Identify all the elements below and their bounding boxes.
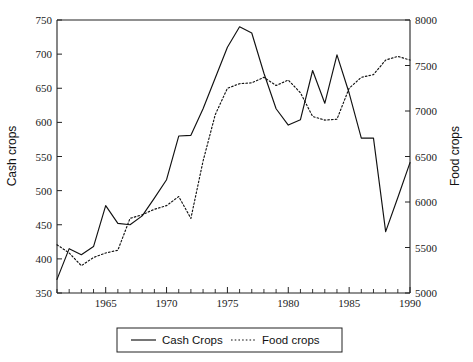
x-axis-tick-label: 1980	[277, 297, 300, 309]
y-axis-right-tick-label: 7000	[415, 105, 438, 117]
y-axis-right-tick-label: 8000	[415, 14, 438, 26]
y-axis-left-tick-label: 600	[36, 116, 53, 128]
y-axis-left-tick-label: 750	[36, 14, 53, 26]
legend-label-food-crops: Food crops	[262, 334, 320, 346]
y-axis-left-tick-label: 650	[36, 82, 53, 94]
y-axis-left-title: Cash crops	[5, 126, 19, 187]
x-axis-tick-label: 1990	[399, 297, 422, 309]
legend-label-cash-crops: Cash Crops	[162, 334, 223, 346]
y-axis-right-tick-label: 6500	[415, 151, 438, 163]
y-axis-left-tick-label: 700	[36, 48, 53, 60]
y-axis-right-tick-label: 7500	[415, 60, 438, 72]
y-axis-left-tick-label: 400	[36, 253, 53, 265]
y-axis-left-tick-label: 500	[36, 185, 53, 197]
y-axis-right-tick-label: 6000	[415, 196, 438, 208]
y-axis-left-tick-label: 550	[36, 151, 53, 163]
x-axis-tick-label: 1985	[338, 297, 361, 309]
y-axis-right-title: Food crops	[448, 126, 462, 186]
x-axis-tick-label: 1970	[156, 297, 179, 309]
chart-legend: Cash Crops Food crops	[117, 328, 342, 352]
y-axis-left-tick-label: 450	[36, 219, 53, 231]
y-axis-right-tick-label: 5500	[415, 242, 438, 254]
y-axis-left-tick-label: 350	[36, 287, 53, 299]
x-axis-tick-label: 1965	[95, 297, 118, 309]
chart-container: 350400450500550600650700750 500055006000…	[0, 0, 473, 362]
x-axis-tick-label: 1975	[216, 297, 239, 309]
dual-axis-line-chart: 350400450500550600650700750 500055006000…	[0, 0, 473, 362]
